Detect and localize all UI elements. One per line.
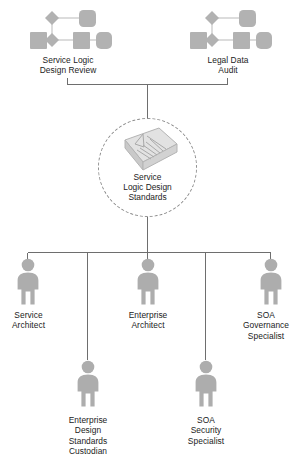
person-icon — [73, 360, 103, 408]
role-node-enterprise-design-standards-custodian[interactable] — [73, 360, 103, 408]
process-label-legal-data-audit: Legal Data Audit — [172, 55, 284, 76]
role-label-soa-governance-specialist: SOA Governance Specialist — [235, 310, 297, 341]
person-icon — [256, 258, 286, 306]
role-node-service-architect[interactable] — [13, 258, 43, 306]
person-icon — [133, 258, 163, 306]
role-label-enterprise-architect: Enterprise Architect — [113, 310, 183, 331]
role-node-soa-governance-specialist[interactable] — [256, 258, 286, 306]
role-label-service-architect: Service Architect — [0, 310, 57, 331]
process-node-legal-data-audit[interactable] — [182, 6, 274, 52]
governance-diagram: Service Logic Design Review Legal Data A… — [0, 0, 298, 472]
process-label-service-logic-design-review: Service Logic Design Review — [10, 55, 126, 76]
center-label-service-logic-design-standards: Service Logic Design Standards — [103, 172, 192, 203]
document-stack-icon — [119, 126, 181, 176]
role-node-enterprise-architect[interactable] — [133, 258, 163, 306]
person-icon — [13, 258, 43, 306]
person-icon — [191, 360, 221, 408]
role-node-soa-security-specialist[interactable] — [191, 360, 221, 408]
process-cluster-icon — [182, 6, 274, 52]
process-cluster-icon — [22, 6, 114, 52]
role-label-enterprise-design-standards-custodian: Enterprise Design Standards Custodian — [54, 415, 122, 457]
role-label-soa-security-specialist: SOA Security Specialist — [172, 415, 240, 446]
process-node-service-logic-design-review[interactable] — [22, 6, 114, 52]
